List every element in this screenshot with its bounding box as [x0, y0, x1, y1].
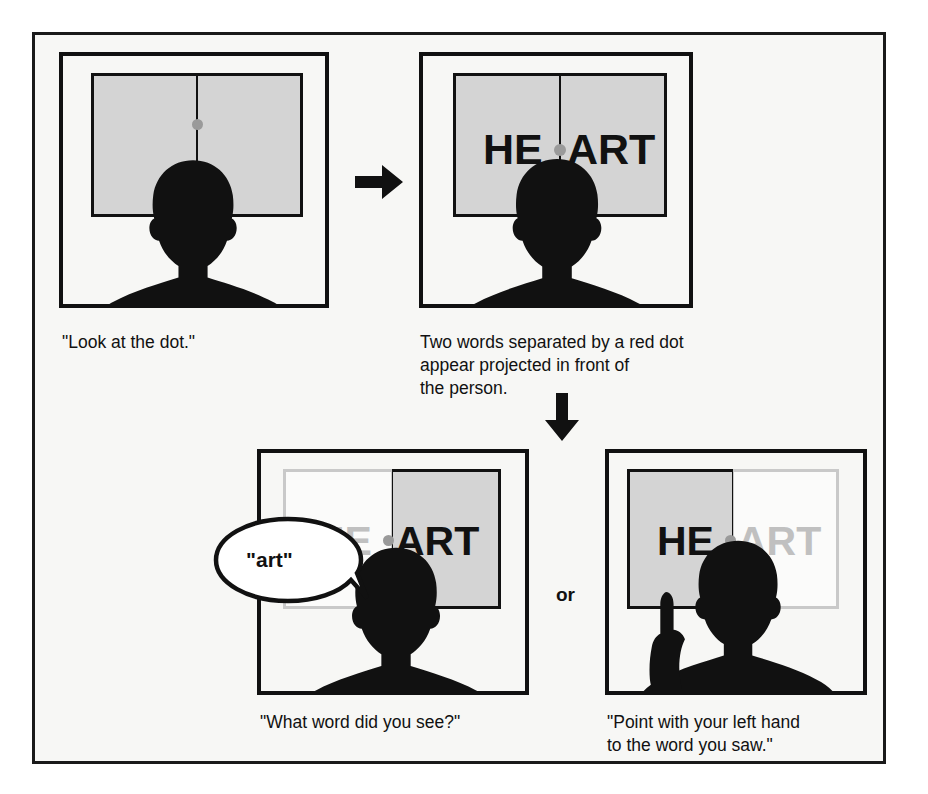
panel-look-at-dot	[59, 52, 329, 308]
caption-what-word: "What word did you see?"	[260, 711, 560, 734]
speech-bubble-text: "art"	[246, 548, 293, 572]
person-silhouette	[425, 152, 691, 308]
fixation-dot	[192, 119, 203, 130]
caption-point-with-hand: "Point with your left hand to the word y…	[607, 711, 907, 757]
caption-look-at-dot: "Look at the dot."	[62, 331, 362, 354]
panel-heart-projected: HE ART	[419, 52, 693, 308]
person-silhouette-pointing	[611, 535, 867, 695]
arrow-down-icon	[545, 393, 579, 441]
caption-heart-projected: Two words separated by a red dot appear …	[420, 331, 750, 400]
arrow-right-icon	[355, 165, 403, 199]
person-silhouette	[63, 152, 325, 308]
or-label: or	[556, 584, 575, 606]
panel-point-with-hand: HE ART	[605, 449, 867, 695]
figure-frame: "Look at the dot." HE ART Two words sepa…	[32, 32, 886, 764]
